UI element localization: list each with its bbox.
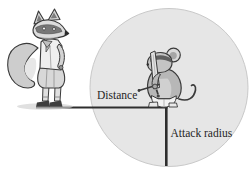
fox-shoe-front [50,101,63,107]
rat-sword-pommel [157,94,160,97]
fox-illustration [8,9,73,110]
fox-hand [59,66,63,70]
attack-radius-diagram: Distance Attack radius [0,0,249,173]
rat-foot-left [149,102,159,107]
rat-nose [147,63,149,65]
diagram-svg: Distance Attack radius [0,0,249,173]
rat-foot-right [169,103,178,107]
attack-radius-label: Attack radius [171,127,233,139]
fox-breeches [38,68,65,88]
rat-hand [153,84,158,89]
fox-eye-right [53,28,56,31]
fox-eye-left [43,27,46,30]
distance-label: Distance [97,89,137,101]
